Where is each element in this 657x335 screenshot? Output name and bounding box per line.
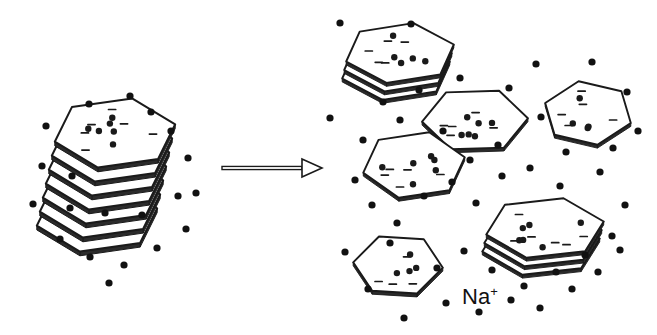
sodium-ion <box>368 201 375 208</box>
platelet-face-dot <box>431 157 437 163</box>
sodium-ion <box>56 235 63 242</box>
platelet-face-dot <box>520 225 526 231</box>
sodium-ion <box>147 108 154 115</box>
sodium-ion <box>456 74 463 81</box>
sodium-ion <box>520 282 527 289</box>
platelet-face-dot <box>391 54 397 60</box>
sodium-ion <box>66 204 73 211</box>
sodium-ion <box>505 84 512 91</box>
sodium-ion <box>623 88 630 95</box>
sodium-ion <box>396 116 403 123</box>
sodium-ion <box>400 314 407 321</box>
platelet-face-dot <box>413 265 419 271</box>
platelet-face-dot <box>390 33 396 39</box>
sodium-ion <box>386 239 393 246</box>
sodium-ion <box>634 127 641 134</box>
sodium-ion <box>608 232 615 239</box>
platelet-face-dot <box>526 222 532 228</box>
platelet-face-dot <box>475 120 481 126</box>
sodium-ion <box>556 182 563 189</box>
sodium-ion <box>120 261 127 268</box>
sodium-ion <box>448 178 455 185</box>
sodium-charge-sign: + <box>490 284 498 299</box>
sodium-ion <box>167 127 174 134</box>
sodium-ion <box>609 144 616 151</box>
sodium-ion <box>42 122 49 129</box>
platelet-face-dot <box>109 115 115 121</box>
sodium-ion <box>433 264 440 271</box>
sodium-ion <box>581 251 588 258</box>
platelet-face-dot <box>410 55 416 61</box>
sodium-ion <box>442 299 449 306</box>
sodium-ion <box>126 92 133 99</box>
sodium-ion <box>379 98 386 105</box>
sodium-ion <box>568 285 575 292</box>
sodium-ion <box>38 162 45 169</box>
sodium-ion <box>588 58 595 65</box>
platelet-face-dot <box>111 128 117 134</box>
sodium-ion <box>393 219 400 226</box>
sodium-ion <box>86 253 93 260</box>
sodium-ion <box>359 136 366 143</box>
platelet-face-dot <box>466 131 472 137</box>
sodium-ion <box>536 304 543 311</box>
platelet-face-dot <box>394 270 400 276</box>
sodium-ion <box>494 141 501 148</box>
sodium-ion <box>182 225 189 232</box>
platelet-face-dot <box>398 60 404 66</box>
sodium-ion <box>407 20 414 27</box>
arrow-shaft <box>222 166 302 169</box>
sodium-ion <box>552 268 559 275</box>
sodium-ion <box>105 279 112 286</box>
platelet-face-dot <box>577 95 583 101</box>
sodium-ion <box>420 192 427 199</box>
sodium-ion <box>596 168 603 175</box>
sodium-ion <box>472 199 479 206</box>
sodium-ion <box>526 164 533 171</box>
diagram-canvas <box>0 0 657 335</box>
sodium-ion <box>507 296 514 303</box>
platelet-face-dot <box>489 120 495 126</box>
sodium-ion <box>460 247 467 254</box>
platelet-face-dot <box>379 164 385 170</box>
sodium-ion <box>537 113 544 120</box>
sodium-ion <box>184 154 191 161</box>
platelet-face-dot <box>96 128 102 134</box>
sodium-ion <box>364 285 371 292</box>
sodium-ion <box>498 172 505 179</box>
sodium-ion <box>415 86 422 93</box>
sodium-ion <box>475 308 482 315</box>
sodium-ion <box>336 19 343 26</box>
sodium-ion <box>562 148 569 155</box>
sodium-ion <box>341 248 348 255</box>
sodium-ion <box>616 246 623 253</box>
sodium-ion <box>29 200 36 207</box>
sodium-ion-label: Na+ <box>462 286 498 308</box>
sodium-ion <box>68 172 75 179</box>
sodium-ion <box>192 189 199 196</box>
sodium-ion <box>326 114 333 121</box>
sodium-ion <box>466 156 473 163</box>
platelet-face-dot <box>422 58 428 64</box>
platelet-face-dot <box>464 114 470 120</box>
platelet-face-dot <box>539 244 545 250</box>
sodium-ion <box>439 127 446 134</box>
exfoliation-diagram: Na+ <box>0 0 657 335</box>
platelet-top-right <box>342 23 454 103</box>
sodium-ion <box>594 268 601 275</box>
sodium-ion-text: Na <box>462 284 490 309</box>
sodium-ion <box>621 201 628 208</box>
platelet-face-dot <box>472 133 478 139</box>
platelet-face-dot <box>585 125 591 131</box>
platelet-face-dot <box>458 132 464 138</box>
platelet-face-dot <box>410 181 416 187</box>
platelet-face-dot <box>107 120 113 126</box>
sodium-ion <box>174 192 181 199</box>
sodium-ion <box>532 60 539 67</box>
platelet-face-dot <box>406 268 412 274</box>
platelet-face-dot <box>578 220 584 226</box>
platelet-face-dot <box>85 126 91 132</box>
platelet-face-dot <box>410 160 416 166</box>
platelet-face-dot <box>433 167 439 173</box>
sodium-ion <box>153 244 160 251</box>
